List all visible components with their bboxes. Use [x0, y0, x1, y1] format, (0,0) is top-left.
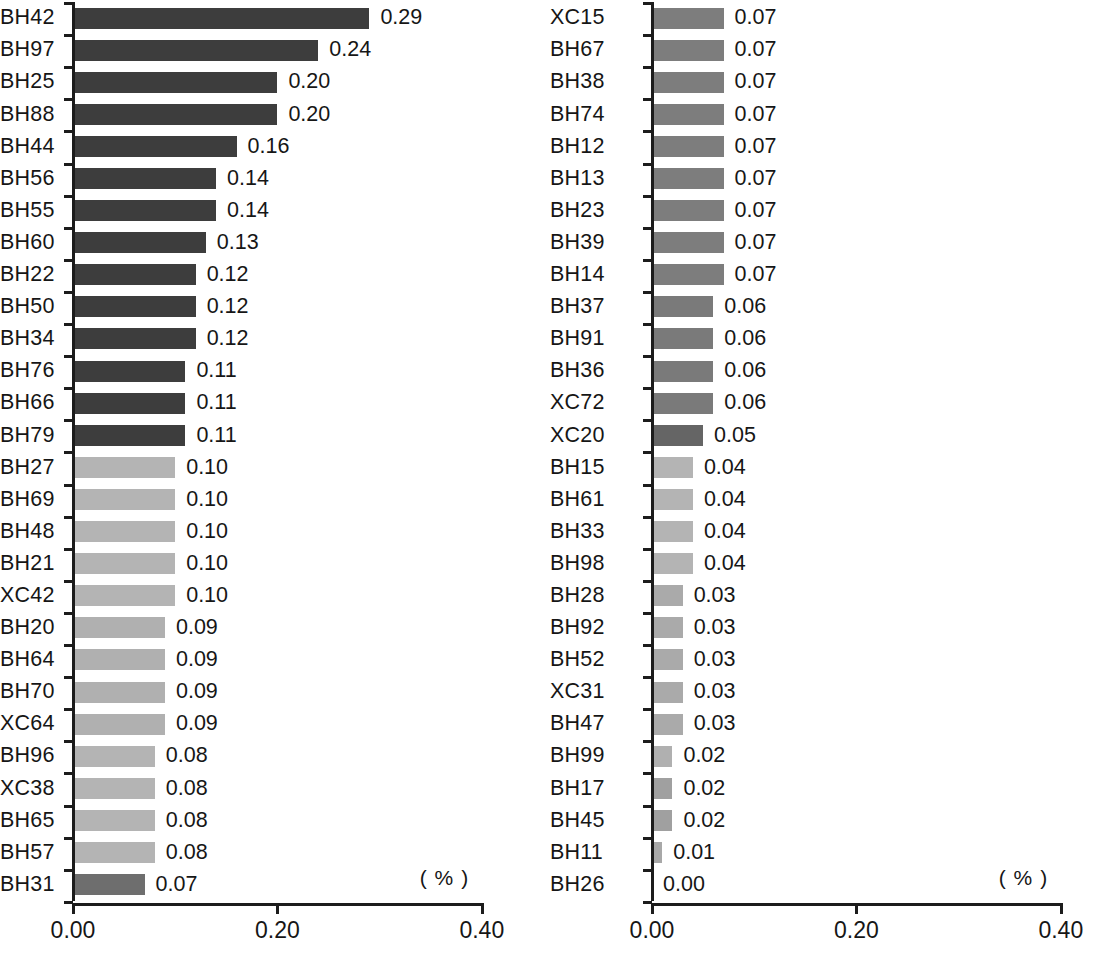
bar-row[interactable]: BH270.10: [0, 451, 553, 483]
bar[interactable]: [73, 746, 155, 767]
bar-row[interactable]: BH690.10: [0, 483, 553, 515]
bar-row[interactable]: BH150.04: [550, 451, 1103, 483]
bar-row[interactable]: BH330.04: [550, 516, 1103, 548]
bar-row[interactable]: BH110.01: [550, 836, 1103, 868]
bar-row[interactable]: BH740.07: [550, 98, 1103, 130]
bar-row[interactable]: BH760.11: [0, 355, 553, 387]
bar-row[interactable]: BH600.13: [0, 227, 553, 259]
bar[interactable]: [652, 296, 713, 317]
bar-row[interactable]: BH140.07: [550, 259, 1103, 291]
bar[interactable]: [652, 585, 683, 606]
bar-row[interactable]: BH520.03: [550, 644, 1103, 676]
bar-row[interactable]: BH370.06: [550, 291, 1103, 323]
bar[interactable]: [652, 778, 672, 799]
bar[interactable]: [73, 393, 185, 414]
bar[interactable]: [652, 168, 724, 189]
bar[interactable]: [652, 746, 672, 767]
bar-row[interactable]: BH880.20: [0, 98, 553, 130]
bar[interactable]: [73, 296, 196, 317]
bar[interactable]: [652, 40, 724, 61]
bar-row[interactable]: BH920.03: [550, 612, 1103, 644]
bar-row[interactable]: BH230.07: [550, 195, 1103, 227]
bar-row[interactable]: BH910.06: [550, 323, 1103, 355]
bar[interactable]: [652, 232, 724, 253]
bar[interactable]: [652, 393, 713, 414]
bar[interactable]: [73, 72, 277, 93]
bar[interactable]: [652, 649, 683, 670]
bar-row[interactable]: BH640.09: [0, 644, 553, 676]
bar[interactable]: [652, 617, 683, 638]
bar-row[interactable]: BH610.04: [550, 483, 1103, 515]
bar-row[interactable]: BH570.08: [0, 836, 553, 868]
bar-row[interactable]: BH670.07: [550, 34, 1103, 66]
bar-row[interactable]: BH220.12: [0, 259, 553, 291]
bar-row[interactable]: XC380.08: [0, 772, 553, 804]
bar[interactable]: [73, 553, 175, 574]
bar-row[interactable]: BH380.07: [550, 66, 1103, 98]
bar-row[interactable]: BH470.03: [550, 708, 1103, 740]
bar-row[interactable]: BH170.02: [550, 772, 1103, 804]
bar-row[interactable]: BH980.04: [550, 548, 1103, 580]
bar[interactable]: [652, 72, 724, 93]
bar[interactable]: [652, 457, 693, 478]
bar[interactable]: [652, 521, 693, 542]
bar[interactable]: [73, 714, 165, 735]
bar-row[interactable]: BH700.09: [0, 676, 553, 708]
bar[interactable]: [73, 232, 206, 253]
bar-row[interactable]: BH970.24: [0, 34, 553, 66]
bar-row[interactable]: XC150.07: [550, 2, 1103, 34]
bar-row[interactable]: XC420.10: [0, 580, 553, 612]
bar-row[interactable]: BH960.08: [0, 740, 553, 772]
bar[interactable]: [652, 264, 724, 285]
bar[interactable]: [73, 361, 185, 382]
bar-row[interactable]: BH440.16: [0, 130, 553, 162]
bar[interactable]: [652, 682, 683, 703]
bar-row[interactable]: BH340.12: [0, 323, 553, 355]
bar[interactable]: [652, 200, 724, 221]
bar-row[interactable]: BH200.09: [0, 612, 553, 644]
bar[interactable]: [652, 8, 724, 29]
bar-row[interactable]: XC640.09: [0, 708, 553, 740]
bar[interactable]: [652, 136, 724, 157]
bar-row[interactable]: BH250.20: [0, 66, 553, 98]
bar-row[interactable]: XC720.06: [550, 387, 1103, 419]
bar-row[interactable]: BH990.02: [550, 740, 1103, 772]
bar-row[interactable]: BH450.02: [550, 804, 1103, 836]
bar-row[interactable]: BH420.29: [0, 2, 553, 34]
bar-row[interactable]: BH560.14: [0, 162, 553, 194]
bar[interactable]: [73, 842, 155, 863]
bar[interactable]: [73, 168, 216, 189]
bar[interactable]: [652, 328, 713, 349]
bar[interactable]: [73, 425, 185, 446]
bar[interactable]: [73, 874, 145, 895]
bar[interactable]: [73, 778, 155, 799]
bar[interactable]: [73, 457, 175, 478]
bar-row[interactable]: BH660.11: [0, 387, 553, 419]
bar[interactable]: [73, 200, 216, 221]
bar-row[interactable]: XC310.03: [550, 676, 1103, 708]
bar[interactable]: [73, 264, 196, 285]
bar[interactable]: [73, 104, 277, 125]
bar[interactable]: [652, 425, 703, 446]
bar[interactable]: [73, 682, 165, 703]
bar[interactable]: [652, 104, 724, 125]
bar-row[interactable]: BH790.11: [0, 419, 553, 451]
bar-row[interactable]: BH310.07: [0, 869, 553, 901]
bar-row[interactable]: BH130.07: [550, 162, 1103, 194]
bar[interactable]: [652, 810, 672, 831]
bar[interactable]: [73, 810, 155, 831]
bar-row[interactable]: BH390.07: [550, 227, 1103, 259]
bar-row[interactable]: BH360.06: [550, 355, 1103, 387]
bar[interactable]: [652, 714, 683, 735]
bar[interactable]: [652, 553, 693, 574]
bar[interactable]: [73, 521, 175, 542]
bar[interactable]: [73, 489, 175, 510]
bar[interactable]: [73, 328, 196, 349]
bar-row[interactable]: BH480.10: [0, 516, 553, 548]
bar-row[interactable]: BH500.12: [0, 291, 553, 323]
bar[interactable]: [73, 40, 318, 61]
bar-row[interactable]: BH210.10: [0, 548, 553, 580]
bar-row[interactable]: BH280.03: [550, 580, 1103, 612]
bar[interactable]: [73, 617, 165, 638]
bar-row[interactable]: BH550.14: [0, 195, 553, 227]
